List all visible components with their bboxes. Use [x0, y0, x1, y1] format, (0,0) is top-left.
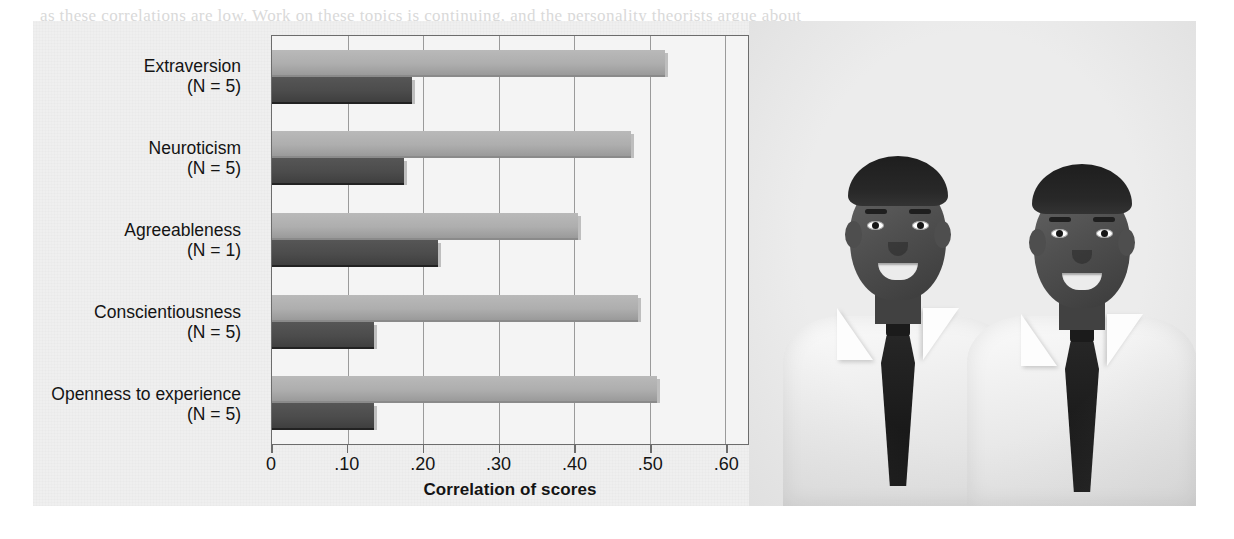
category-sample-size: (N = 5): [187, 404, 241, 424]
x-tick-label: .10: [334, 454, 359, 475]
bar-identical-twins: [272, 213, 578, 240]
bar-identical-twins: [272, 376, 657, 403]
twin-right-figure: [957, 86, 1196, 506]
bar-fraternal-twins: [272, 322, 374, 349]
bar-fraternal-twins: [272, 403, 374, 430]
category-sample-size: (N = 5): [187, 322, 241, 342]
textbook-page: as these correlations are low. Work on t…: [0, 0, 1234, 539]
bar-group: [272, 362, 748, 444]
bar-group: [272, 36, 748, 118]
category-axis-labels: Extraversion(N = 5)Neuroticism(N = 5)Agr…: [33, 35, 255, 445]
x-axis-title: Correlation of scores: [271, 480, 749, 500]
bar-identical-twins: [272, 131, 631, 158]
category-sample-size: (N = 1): [187, 240, 241, 260]
x-axis-tick-labels: 0.10.20.30.40.50.60: [271, 454, 749, 480]
x-tick: [423, 445, 425, 453]
x-tick: [271, 445, 273, 453]
category-name: Extraversion: [144, 56, 241, 76]
bar-identical-twins: [272, 50, 665, 77]
bar-identical-twins: [272, 295, 638, 322]
bar-fraternal-twins: [272, 158, 404, 185]
category-sample-size: (N = 5): [187, 76, 241, 96]
category-name: Agreeableness: [124, 220, 241, 240]
bar-group: [272, 199, 748, 281]
plot-area: [271, 35, 749, 445]
x-tick: [574, 445, 576, 453]
x-tick: [726, 445, 728, 453]
figure-panel: © Cengage Learning 2013 © Image Source/A…: [33, 21, 1196, 506]
bar-fraternal-twins: [272, 77, 412, 104]
category-label-neuroticism: Neuroticism(N = 5): [33, 117, 255, 199]
x-tick: [650, 445, 652, 453]
x-tick: [499, 445, 501, 453]
x-tick-label: .40: [562, 454, 587, 475]
category-label-openness-to-experience: Openness to experience(N = 5): [33, 363, 255, 445]
x-tick-label: .50: [638, 454, 663, 475]
bar-groups: [272, 36, 748, 444]
bar-fraternal-twins: [272, 240, 438, 267]
x-tick: [347, 445, 349, 453]
category-sample-size: (N = 5): [187, 158, 241, 178]
x-tick-label: .60: [714, 454, 739, 475]
category-label-conscientiousness: Conscientiousness(N = 5): [33, 281, 255, 363]
bar-group: [272, 118, 748, 200]
twins-photograph: [749, 21, 1196, 506]
x-tick-label: .30: [486, 454, 511, 475]
category-name: Neuroticism: [149, 138, 241, 158]
category-name: Openness to experience: [51, 384, 241, 404]
category-label-extraversion: Extraversion(N = 5): [33, 35, 255, 117]
category-label-agreeableness: Agreeableness(N = 1): [33, 199, 255, 281]
category-name: Conscientiousness: [94, 302, 241, 322]
bar-group: [272, 281, 748, 363]
x-tick-label: 0: [266, 454, 276, 475]
x-tick-label: .20: [410, 454, 435, 475]
